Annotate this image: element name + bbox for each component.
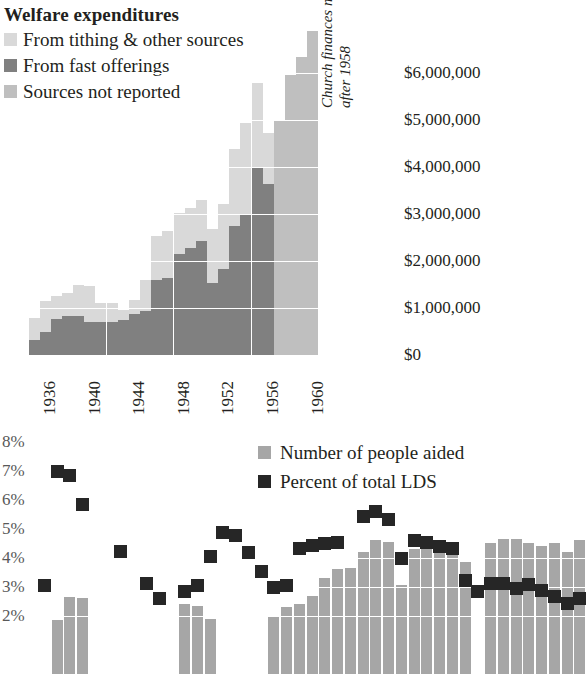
- bar-column: [52, 620, 63, 674]
- bar-column: [358, 552, 369, 674]
- bar-column: [140, 280, 151, 355]
- gridline: [28, 214, 318, 215]
- bar-segment-fast-offerings: [73, 316, 84, 355]
- bar-segment-tithing: [118, 310, 129, 320]
- welfare-expenditures-chart: Welfare expenditures From tithing & othe…: [0, 0, 586, 430]
- bar-column: [196, 200, 207, 355]
- bar-segment-tithing: [263, 133, 274, 184]
- bar-segment-not-reported: [307, 31, 318, 355]
- bar-column: [218, 204, 229, 355]
- gridline: [38, 529, 586, 530]
- bar-column: [511, 539, 522, 674]
- data-point-marker: [280, 579, 293, 592]
- bar-column: [332, 569, 343, 674]
- data-point-marker: [573, 592, 586, 605]
- data-point-marker: [51, 465, 64, 478]
- y-axis-label: 7%: [2, 462, 25, 479]
- people-aided-chart: 8%7%6%5%4%3%2% Number of people aided Pe…: [0, 424, 586, 674]
- bar-column: [73, 285, 84, 355]
- bar-column: [162, 231, 173, 355]
- data-point-marker: [178, 585, 191, 598]
- data-point-marker: [318, 537, 331, 550]
- data-point-marker: [63, 469, 76, 482]
- y-axis-label: 8%: [2, 433, 25, 450]
- bar-column: [536, 546, 547, 674]
- bar-segment-fast-offerings: [62, 316, 73, 355]
- bar-column: [281, 607, 292, 674]
- data-point-marker: [331, 536, 344, 549]
- bar-column: [29, 318, 40, 355]
- bar-segment-fast-offerings: [218, 269, 229, 355]
- bar-column: [62, 293, 73, 355]
- bar-column: [574, 540, 585, 674]
- bar-segment-fast-offerings: [51, 319, 62, 355]
- y-axis-label: $3,000,000: [404, 205, 481, 222]
- x-axis-label: 1936: [41, 381, 58, 415]
- bar-column: [95, 303, 106, 355]
- bar-segment-tithing: [95, 303, 106, 322]
- bar-segment-tithing: [162, 231, 173, 278]
- data-point-marker: [255, 565, 268, 578]
- gridline: [38, 558, 586, 559]
- x-axis-label: 1940: [86, 381, 103, 415]
- bar-column: [485, 543, 496, 674]
- bar-segment-fast-offerings: [229, 226, 240, 355]
- y-axis-label: 6%: [2, 491, 25, 508]
- bar-column: [84, 286, 95, 355]
- bar-segment-fast-offerings: [151, 280, 162, 355]
- bar-segment-fast-offerings: [107, 322, 118, 355]
- bar-column: [307, 31, 318, 355]
- data-point-marker: [408, 534, 421, 547]
- x-axis-label: 1948: [175, 381, 192, 415]
- bar-column: [345, 568, 356, 674]
- x-axis-label: 1956: [264, 381, 281, 415]
- gridline: [38, 500, 586, 501]
- bar-column: [396, 585, 407, 674]
- data-point-marker: [420, 536, 433, 549]
- gridline: [28, 261, 318, 262]
- top-chart-plot-area: [28, 26, 318, 355]
- bar-segment-tithing: [252, 83, 263, 168]
- bar-column: [77, 598, 88, 674]
- data-point-marker: [216, 526, 229, 539]
- y-axis-label: 2%: [2, 607, 25, 624]
- bar-segment-tithing: [40, 301, 51, 331]
- bar-column: [383, 542, 394, 674]
- data-point-marker: [446, 542, 459, 555]
- gridline: [28, 167, 318, 168]
- data-point-marker: [229, 529, 242, 542]
- x-axis-label: 1952: [219, 381, 236, 415]
- data-point-marker: [357, 510, 370, 523]
- data-point-marker: [471, 585, 484, 598]
- bar-column: [447, 543, 458, 674]
- data-point-marker: [561, 597, 574, 610]
- bar-segment-tithing: [73, 285, 84, 316]
- y-axis-label: $6,000,000: [404, 64, 481, 81]
- gridline: [28, 120, 318, 121]
- data-point-marker: [459, 574, 472, 587]
- bar-segment-tithing: [240, 123, 251, 214]
- bar-column: [51, 296, 62, 355]
- gridline: [38, 442, 586, 443]
- data-point-marker: [267, 581, 280, 594]
- bottom-chart-plot-area: [38, 430, 586, 674]
- gridline: [28, 308, 318, 309]
- gridline: [38, 471, 586, 472]
- x-axis-label: 1960: [309, 381, 326, 415]
- y-axis-label: $5,000,000: [404, 111, 481, 128]
- bar-segment-tithing: [196, 200, 207, 241]
- data-point-marker: [204, 550, 217, 563]
- bar-column: [207, 229, 218, 355]
- y-axis-label: $2,000,000: [404, 252, 481, 269]
- bar-column: [174, 213, 185, 355]
- data-point-marker: [548, 590, 561, 603]
- legend-swatch-not-reported: [4, 85, 17, 98]
- bar-column: [229, 149, 240, 355]
- data-point-marker: [395, 552, 408, 565]
- bar-segment-fast-offerings: [84, 322, 95, 355]
- bar-column: [151, 236, 162, 355]
- bar-segment-fast-offerings: [40, 332, 51, 356]
- bar-column: [118, 310, 129, 355]
- bar-segment-fast-offerings: [185, 248, 196, 355]
- data-point-marker: [433, 540, 446, 553]
